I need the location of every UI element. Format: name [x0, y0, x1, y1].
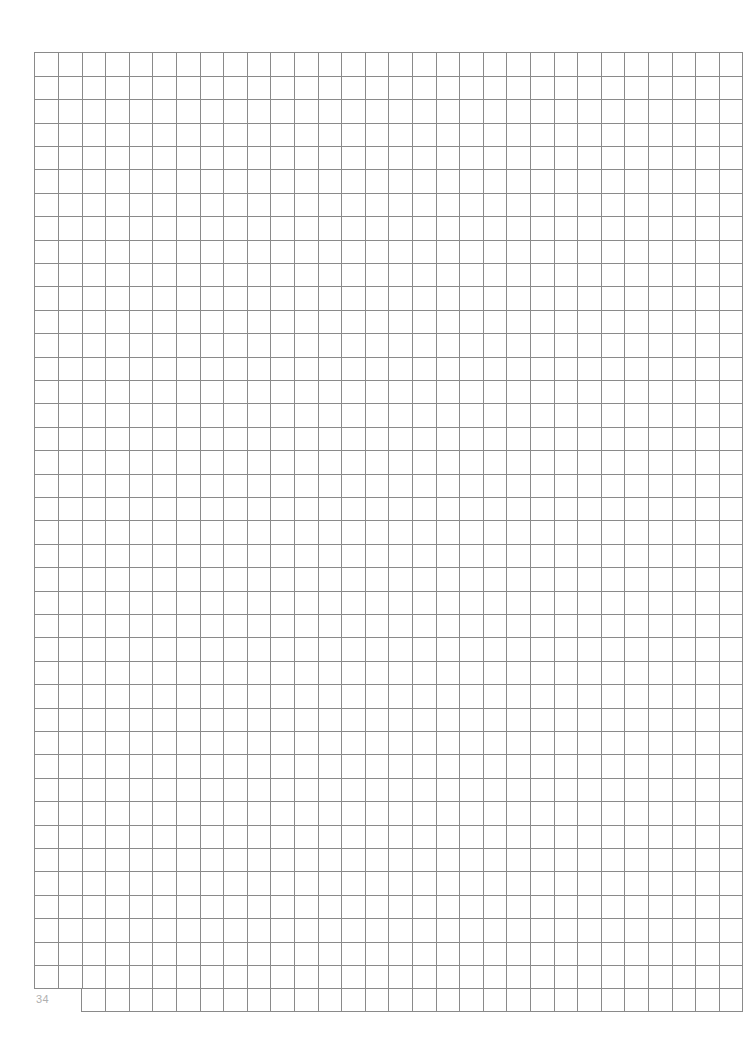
grid-cell: [531, 287, 555, 311]
grid-cell: [35, 591, 59, 615]
grid-cell: [200, 334, 224, 358]
grid-cell: [696, 310, 720, 334]
grid-cell: [106, 474, 130, 498]
grid-cell: [389, 427, 413, 451]
grid-cell: [59, 193, 83, 217]
grid-cell: [177, 942, 201, 966]
grid-cell: [507, 498, 531, 522]
grid-cell: [554, 708, 578, 732]
grid-cell: [200, 427, 224, 451]
grid-cell: [200, 872, 224, 896]
grid-cell: [365, 988, 389, 1012]
grid-cell: [483, 942, 507, 966]
grid-cell: [672, 802, 696, 826]
grid-cell: [483, 264, 507, 288]
grid-cell: [436, 708, 460, 732]
grid-cell: [365, 708, 389, 732]
grid-cell: [601, 568, 625, 592]
grid-cell: [649, 942, 673, 966]
grid-cell: [82, 147, 106, 171]
grid-cell: [247, 849, 271, 873]
grid-cell: [483, 240, 507, 264]
grid-cell: [625, 53, 649, 77]
grid-cell: [413, 591, 437, 615]
grid-cell: [271, 240, 295, 264]
grid-cell: [554, 404, 578, 428]
grid-cell: [271, 357, 295, 381]
grid-cell: [271, 334, 295, 358]
grid-cell: [649, 615, 673, 639]
grid-cell: [531, 872, 555, 896]
grid-cell: [35, 849, 59, 873]
grid-cell: [106, 264, 130, 288]
grid-cell: [531, 732, 555, 756]
grid-cell: [672, 217, 696, 241]
grid-cell: [200, 778, 224, 802]
grid-cell: [224, 147, 248, 171]
grid-cell: [365, 76, 389, 100]
grid-cell: [247, 404, 271, 428]
grid-cell: [295, 381, 319, 405]
grid-cell: [649, 451, 673, 475]
grid-cell: [625, 615, 649, 639]
grid-cell: [82, 287, 106, 311]
grid-cell: [554, 193, 578, 217]
grid-cell: [82, 895, 106, 919]
grid-cell: [554, 357, 578, 381]
grid-cell: [696, 661, 720, 685]
grid-cell: [578, 217, 602, 241]
grid-cell: [35, 310, 59, 334]
grid-cell: [554, 334, 578, 358]
grid-cell: [271, 123, 295, 147]
grid-cell: [106, 966, 130, 990]
grid-cell: [507, 170, 531, 194]
grid-cell: [82, 544, 106, 568]
grid-cell: [578, 849, 602, 873]
grid-cell: [153, 661, 177, 685]
grid-cell: [224, 287, 248, 311]
grid-cell: [318, 217, 342, 241]
grid-cell: [153, 544, 177, 568]
grid-cell: [578, 778, 602, 802]
grid-cell: [35, 708, 59, 732]
grid-cell: [271, 755, 295, 779]
grid-cell: [200, 170, 224, 194]
grid-cell: [295, 404, 319, 428]
grid-cell: [696, 895, 720, 919]
grid-cell: [106, 310, 130, 334]
grid-cell: [295, 732, 319, 756]
grid-cell: [365, 919, 389, 943]
grid-cell: [224, 474, 248, 498]
grid-cell: [129, 264, 153, 288]
grid-cell: [483, 334, 507, 358]
grid-cell: [365, 755, 389, 779]
grid-cell: [271, 193, 295, 217]
grid-cell: [436, 685, 460, 709]
grid-cell: [531, 966, 555, 990]
grid-cell: [153, 100, 177, 124]
grid-cell: [507, 334, 531, 358]
grid-cell: [436, 919, 460, 943]
grid-cell: [672, 240, 696, 264]
grid-cell: [247, 544, 271, 568]
grid-cell: [436, 988, 460, 1012]
grid-cell: [365, 53, 389, 77]
grid-cell: [507, 591, 531, 615]
grid-cell: [200, 825, 224, 849]
grid-cell: [318, 568, 342, 592]
grid-cell: [200, 568, 224, 592]
grid-cell: [224, 264, 248, 288]
grid-cell: [554, 685, 578, 709]
grid-cell: [177, 849, 201, 873]
grid-cell: [153, 849, 177, 873]
grid-cell: [295, 474, 319, 498]
grid-cell: [224, 381, 248, 405]
grid-cell: [35, 755, 59, 779]
grid-cell: [578, 942, 602, 966]
grid-cell: [460, 451, 484, 475]
grid-cell: [578, 147, 602, 171]
grid-cell: [672, 544, 696, 568]
grid-cell: [153, 919, 177, 943]
grid-cell: [342, 170, 366, 194]
grid-cell: [129, 310, 153, 334]
